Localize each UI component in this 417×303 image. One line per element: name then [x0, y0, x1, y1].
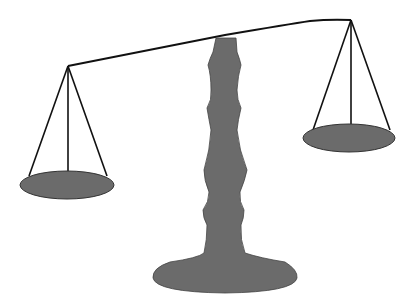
right-pan-assembly — [303, 20, 395, 152]
right-pan — [303, 124, 395, 152]
left-pan-assembly — [20, 66, 114, 199]
balance-scale-illustration — [0, 0, 417, 303]
beam — [68, 20, 351, 66]
left-pan — [20, 171, 114, 199]
pillar — [153, 38, 297, 293]
